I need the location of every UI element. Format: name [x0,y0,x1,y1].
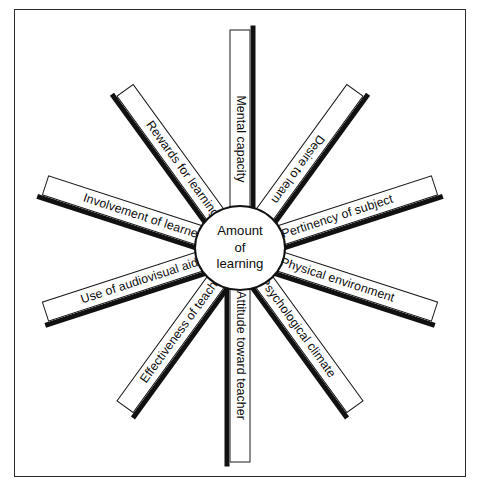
hub-line-3: learning [217,256,264,273]
center-hub: Amount of learning [194,205,286,291]
hub-line-2: of [235,240,246,257]
radial-spoke-diagram: Mental capacityDesire to learnPertinency… [0,0,480,485]
hub-line-1: Amount [217,223,262,240]
